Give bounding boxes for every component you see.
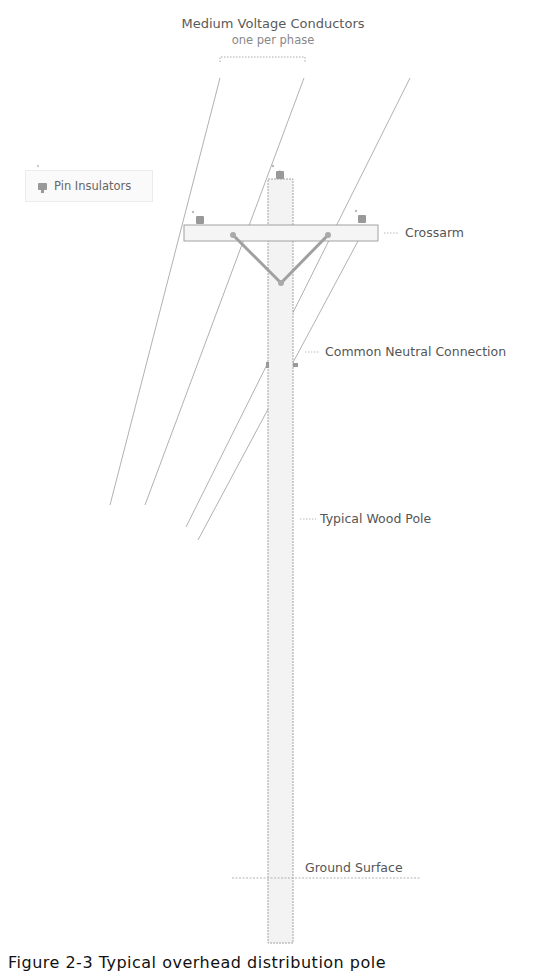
brace-bolt	[278, 280, 284, 286]
label-pole: Typical Wood Pole	[320, 511, 431, 526]
title-sub: one per phase	[158, 33, 388, 47]
neutral-bracket	[293, 363, 298, 367]
brace-bolt	[230, 232, 236, 238]
phase-bracket	[220, 57, 305, 62]
neutral-bracket	[266, 362, 269, 368]
pin-insulator	[355, 210, 366, 223]
label-ground: Ground Surface	[305, 860, 403, 875]
legend-box: Pin Insulators	[25, 170, 153, 202]
figure-caption: Figure 2-3 Typical overhead distribution…	[8, 953, 386, 972]
label-neutral: Common Neutral Connection	[325, 344, 506, 359]
pin-insulator	[272, 165, 284, 179]
pin-insulator	[192, 211, 204, 224]
legend-dot	[37, 165, 39, 167]
label-crossarm: Crossarm	[405, 225, 464, 240]
brace-bolt	[325, 232, 331, 238]
conductor-line	[186, 78, 410, 527]
legend-label: Pin Insulators	[54, 179, 131, 193]
crossarm	[184, 225, 378, 241]
pin-insulator-icon	[38, 183, 47, 190]
conductor-line	[110, 78, 220, 505]
wood-pole	[268, 179, 293, 943]
title-main: Medium Voltage Conductors	[158, 16, 388, 31]
